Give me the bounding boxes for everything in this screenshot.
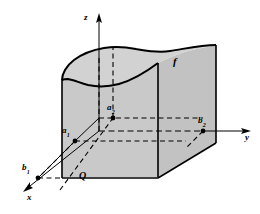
solid-right-face bbox=[158, 45, 216, 177]
region-q-label: Q bbox=[79, 171, 86, 181]
point-b1-label: b1 bbox=[22, 163, 30, 174]
point-a1-dot bbox=[73, 139, 78, 144]
point-a2-subscript: 2 bbox=[112, 109, 115, 115]
point-b2-subscript: 2 bbox=[203, 122, 206, 128]
z-axis-label: z bbox=[84, 13, 88, 22]
point-b1-dot bbox=[36, 176, 41, 181]
point-a2-base: a bbox=[107, 102, 112, 112]
surface-f-label: f bbox=[173, 56, 177, 67]
point-b2-dot bbox=[201, 129, 206, 134]
diagram-svg bbox=[0, 0, 260, 214]
point-b2-label: b2 bbox=[198, 116, 206, 127]
point-a2-dot bbox=[111, 116, 116, 121]
point-a1-base: a bbox=[62, 125, 67, 135]
y-axis-label: y bbox=[245, 133, 249, 142]
figure-canvas: z y x a1 a2 b1 b2 Q f bbox=[0, 0, 260, 214]
point-a2-label: a2 bbox=[107, 103, 115, 114]
point-b1-subscript: 1 bbox=[27, 169, 30, 175]
x-axis-label: x bbox=[27, 193, 32, 202]
point-b1-base: b bbox=[22, 162, 27, 172]
point-a1-label: a1 bbox=[62, 126, 70, 137]
x-axis-arrowhead bbox=[23, 182, 33, 192]
point-a1-subscript: 1 bbox=[67, 132, 70, 138]
point-b2-base: b bbox=[198, 115, 203, 125]
